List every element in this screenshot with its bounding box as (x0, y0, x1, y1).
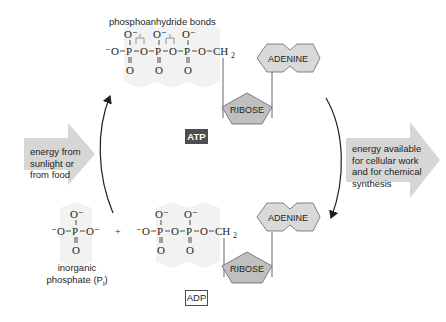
svg-text:P: P (186, 225, 192, 237)
input-line-3: from food (30, 169, 81, 181)
caption-line-2: phosphate (Pi) (42, 274, 112, 290)
adp-phosphate-chain: ⁻O P O P O CH 2 O⁻ O⁻ O O (136, 208, 237, 256)
svg-text:O: O (72, 244, 80, 256)
svg-text:ADENINE: ADENINE (268, 213, 308, 223)
adp-nucleoside: ADENINE RIBOSE (222, 203, 320, 283)
svg-text:P: P (72, 225, 78, 237)
synthesis-arrow (100, 96, 113, 213)
svg-text:P: P (184, 45, 190, 57)
input-energy-text: energy from sunlight or from food (30, 146, 81, 181)
atp-label: ATP (185, 129, 208, 144)
svg-text:O: O (140, 45, 148, 57)
svg-text:O: O (155, 64, 163, 76)
output-line-3: and for chemical (352, 166, 422, 178)
svg-text:CH: CH (213, 45, 228, 57)
bond-label: phosphoanhydride bonds (109, 16, 216, 27)
svg-text:O: O (200, 225, 208, 237)
output-line-4: synthesis (352, 178, 422, 190)
svg-text:2: 2 (233, 231, 237, 240)
svg-text:O⁻: O⁻ (184, 208, 198, 220)
atp-nucleoside: ADENINE RIBOSE (222, 44, 320, 124)
output-line-2: for cellular work (352, 155, 422, 167)
phosphate-caption: inorganic phosphate (Pi) (42, 262, 112, 290)
svg-text:O: O (198, 45, 206, 57)
svg-text:⁻O: ⁻O (51, 225, 65, 237)
svg-text:ADENINE: ADENINE (268, 54, 308, 64)
input-line-1: energy from (30, 146, 81, 158)
svg-text:O⁻: O⁻ (86, 225, 100, 237)
output-energy-text: energy available for cellular work and f… (352, 143, 422, 189)
svg-text:P: P (126, 45, 132, 57)
svg-text:2: 2 (231, 51, 235, 60)
svg-text:RIBOSE: RIBOSE (230, 105, 264, 115)
svg-text:⁻O: ⁻O (105, 45, 119, 57)
svg-text:O⁻: O⁻ (153, 28, 167, 40)
svg-text:P: P (157, 225, 163, 237)
input-line-2: sunlight or (30, 158, 81, 170)
svg-text:⁻O: ⁻O (136, 225, 150, 237)
plus-sign: + (115, 226, 121, 237)
inorganic-phosphate: ⁻O P O⁻ O⁻ O (51, 208, 100, 256)
svg-text:O⁻: O⁻ (182, 28, 196, 40)
svg-text:O⁻: O⁻ (70, 208, 84, 220)
svg-text:O: O (126, 64, 134, 76)
svg-text:O: O (157, 244, 165, 256)
svg-text:O⁻: O⁻ (155, 208, 169, 220)
adp-label: ADP (185, 290, 208, 306)
caption-line-1: inorganic (42, 262, 112, 274)
svg-text:O: O (171, 225, 179, 237)
svg-text:CH: CH (215, 225, 230, 237)
svg-text:O⁻: O⁻ (124, 28, 138, 40)
svg-text:RIBOSE: RIBOSE (230, 264, 264, 274)
svg-text:O: O (184, 64, 192, 76)
svg-text:P: P (155, 45, 161, 57)
svg-text:O: O (186, 244, 194, 256)
hydrolysis-arrow (326, 98, 341, 218)
svg-text:O: O (169, 45, 177, 57)
output-line-1: energy available (352, 143, 422, 155)
